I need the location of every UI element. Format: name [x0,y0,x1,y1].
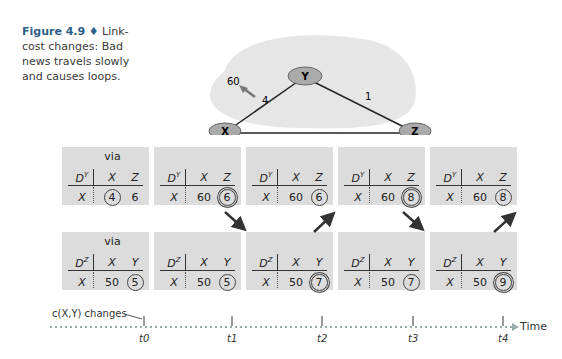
arrow-y-to-z-t1 [225,212,243,228]
update-arrows [0,0,562,359]
cost-change-event-label: c(X,Y) changes [52,308,127,319]
arrow-z-to-y-t2 [314,215,332,232]
arrow-z-to-y-t4 [494,215,513,232]
tick-label-t3: t3 [408,333,418,344]
time-axis-label: Time [520,320,547,333]
time-arrow-icon [512,323,519,331]
tick-label-t1: t1 [227,333,237,344]
tick-label-t0: t0 [139,333,149,344]
tick-label-t4: t4 [498,333,508,344]
arrow-y-to-z-t3 [403,212,421,228]
event-leader-line [124,314,142,319]
tick-label-t2: t2 [317,333,327,344]
